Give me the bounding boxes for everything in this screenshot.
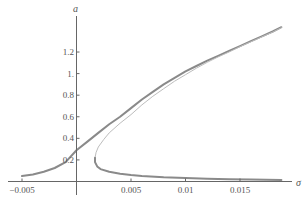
y-tick-label: 1.2: [63, 47, 74, 57]
x-ticks: −0.0050.0050.010.015: [9, 179, 250, 196]
plot-lines: [22, 27, 281, 180]
x-tick-label: 0.01: [178, 185, 194, 195]
x-tick-label: 0.015: [230, 185, 251, 195]
y-tick-label: 0.4: [63, 133, 75, 143]
x-axis-label: σ: [296, 177, 302, 188]
y-axis-label: a: [73, 3, 78, 14]
y-tick-label: 0.2: [63, 155, 74, 165]
bifurcation-chart: −0.0050.0050.010.015 0.20.40.60.81.1.2 a…: [0, 0, 306, 207]
series-lower-stable-branch: [95, 158, 281, 180]
series-middle-unstable-branch: [95, 28, 281, 158]
series-upper-stable-branch: [22, 27, 281, 176]
y-tick-label: 1.: [67, 69, 74, 79]
y-tick-label: 0.8: [63, 90, 75, 100]
y-tick-label: 0.6: [63, 112, 75, 122]
x-tick-label: 0.005: [121, 185, 142, 195]
x-tick-label: −0.005: [9, 185, 35, 195]
